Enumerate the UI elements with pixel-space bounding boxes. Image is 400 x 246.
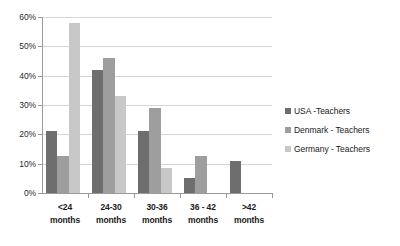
bar bbox=[92, 70, 104, 193]
y-axis-tick bbox=[38, 76, 42, 77]
x-axis-tick bbox=[226, 194, 227, 198]
chart-legend: USA -TeachersDenmark - TeachersGermany -… bbox=[285, 104, 397, 161]
legend-item-label: USA -Teachers bbox=[294, 106, 350, 116]
y-axis-tick-label: 60% bbox=[0, 13, 36, 22]
legend-item[interactable]: Germany - Teachers bbox=[285, 142, 397, 156]
x-axis-tick-label-line: >42 bbox=[226, 201, 272, 214]
y-axis-tick bbox=[38, 105, 42, 106]
bar bbox=[149, 108, 161, 193]
x-axis-tick-label: 24-30months bbox=[88, 201, 134, 226]
bar bbox=[184, 178, 196, 193]
bar bbox=[69, 23, 81, 193]
bar bbox=[230, 161, 242, 193]
x-axis-tick-label-line: months bbox=[134, 214, 180, 227]
x-axis-tick-label: <24months bbox=[42, 201, 88, 226]
x-axis-tick-label-line: 36 - 42 bbox=[180, 201, 226, 214]
y-axis-tick-label: 10% bbox=[0, 159, 36, 168]
legend-item[interactable]: USA -Teachers bbox=[285, 104, 397, 118]
bar bbox=[103, 58, 115, 193]
y-axis-tick bbox=[38, 46, 42, 47]
y-axis-line bbox=[42, 17, 43, 194]
bar bbox=[46, 131, 58, 193]
bar bbox=[161, 168, 173, 193]
legend-swatch-icon bbox=[285, 146, 291, 152]
x-axis-tick-label-line: 24-30 bbox=[88, 201, 134, 214]
legend-swatch-icon bbox=[285, 127, 291, 133]
y-axis-tick bbox=[38, 134, 42, 135]
x-axis-tick-label-line: months bbox=[180, 214, 226, 227]
y-axis-tick bbox=[38, 164, 42, 165]
bar bbox=[195, 156, 207, 193]
bar bbox=[138, 131, 150, 193]
x-axis-tick-label-line: months bbox=[88, 214, 134, 227]
x-axis-tick-label: 36 - 42months bbox=[180, 201, 226, 226]
legend-item[interactable]: Denmark - Teachers bbox=[285, 123, 397, 137]
x-axis-tick bbox=[88, 194, 89, 198]
x-axis-tick bbox=[272, 194, 273, 198]
x-axis-tick-label-line: months bbox=[226, 214, 272, 227]
y-axis-tick bbox=[38, 17, 42, 18]
x-axis-tick-labels: <24months24-30months30-36months36 - 42mo… bbox=[42, 201, 272, 241]
plot-area bbox=[42, 17, 272, 193]
y-axis-tick-label: 0% bbox=[0, 189, 36, 198]
y-axis-tick-label: 20% bbox=[0, 130, 36, 139]
bar-chart: 0%10%20%30%40%50%60% <24months24-30month… bbox=[0, 0, 400, 246]
x-axis-tick-label: 30-36months bbox=[134, 201, 180, 226]
x-axis-tick-label: >42months bbox=[226, 201, 272, 226]
bar bbox=[57, 156, 69, 193]
gridline bbox=[42, 17, 272, 18]
y-axis-tick-label: 40% bbox=[0, 71, 36, 80]
bar bbox=[115, 96, 127, 193]
y-axis-tick bbox=[38, 193, 42, 194]
x-axis-tick bbox=[180, 194, 181, 198]
legend-swatch-icon bbox=[285, 108, 291, 114]
x-axis-tick bbox=[134, 194, 135, 198]
legend-item-label: Germany - Teachers bbox=[294, 144, 370, 154]
x-axis-line bbox=[42, 193, 273, 194]
y-axis-tick-label: 30% bbox=[0, 101, 36, 110]
y-axis-tick-label: 50% bbox=[0, 42, 36, 51]
y-axis-tick-labels: 0%10%20%30%40%50%60% bbox=[0, 17, 36, 193]
x-axis-tick-label-line: months bbox=[42, 214, 88, 227]
x-axis-tick-label-line: <24 bbox=[42, 201, 88, 214]
legend-item-label: Denmark - Teachers bbox=[294, 125, 369, 135]
x-axis-tick-label-line: 30-36 bbox=[134, 201, 180, 214]
